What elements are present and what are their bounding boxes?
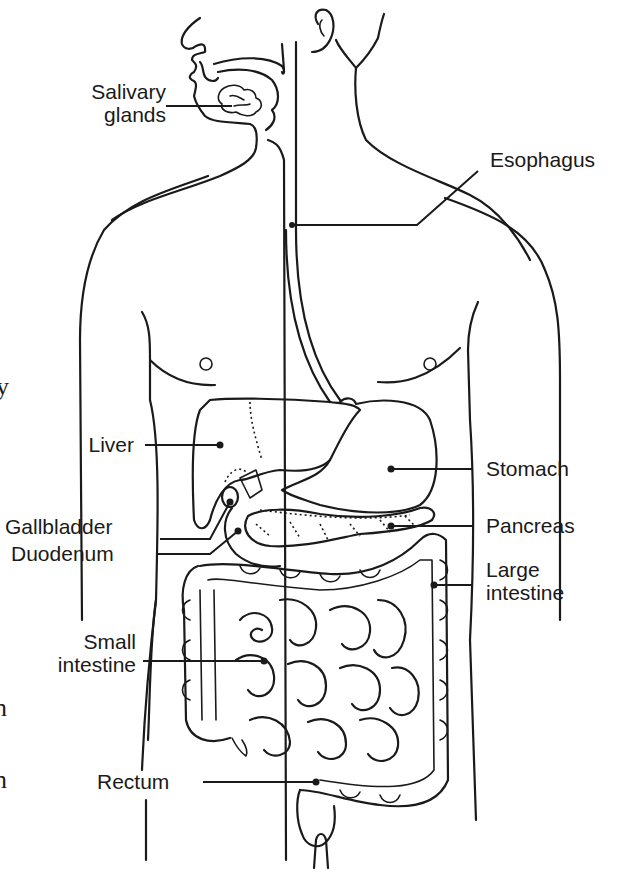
label-large-line2: intestine	[486, 581, 564, 604]
label-salivary-line1: Salivary	[60, 80, 166, 103]
salivary-glands-drawing	[218, 85, 261, 116]
edge-fragment-mid: n	[0, 693, 7, 723]
label-rectum: Rectum	[97, 770, 169, 793]
label-duodenum: Duodenum	[11, 542, 114, 565]
esophagus-leader	[292, 171, 478, 225]
label-large-line1: Large	[486, 558, 564, 581]
label-small-line2: intestine	[30, 653, 136, 676]
label-liver: Liver	[60, 433, 134, 456]
label-esophagus: Esophagus	[490, 148, 595, 171]
small-intestine-drawing	[236, 599, 419, 761]
edge-fragment-top: y	[0, 372, 9, 402]
label-small-line1: Small	[30, 630, 136, 653]
digestive-system-diagram: Salivary glands Esophagus Liver Stomach …	[0, 0, 626, 869]
label-stomach: Stomach	[486, 457, 569, 480]
head-outline	[112, 10, 530, 860]
label-large-intestine: Large intestine	[486, 558, 564, 604]
label-gallbladder: Gallbladder	[5, 515, 112, 538]
large-intestine-drawing	[183, 534, 449, 846]
label-small-intestine: Small intestine	[30, 630, 136, 676]
edge-fragment-low: n	[0, 765, 7, 795]
stomach-drawing	[260, 398, 437, 518]
leader-lines	[143, 106, 478, 786]
label-pancreas: Pancreas	[486, 514, 575, 537]
label-salivary-glands: Salivary glands	[60, 80, 166, 126]
label-salivary-line2: glands	[60, 103, 166, 126]
duodenum-drawing	[225, 508, 280, 567]
